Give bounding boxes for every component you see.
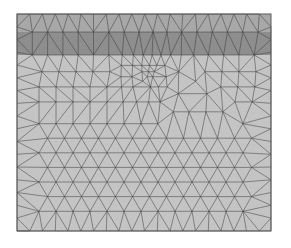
mesh-figure (0, 0, 291, 248)
mesh-domain (17, 14, 271, 231)
